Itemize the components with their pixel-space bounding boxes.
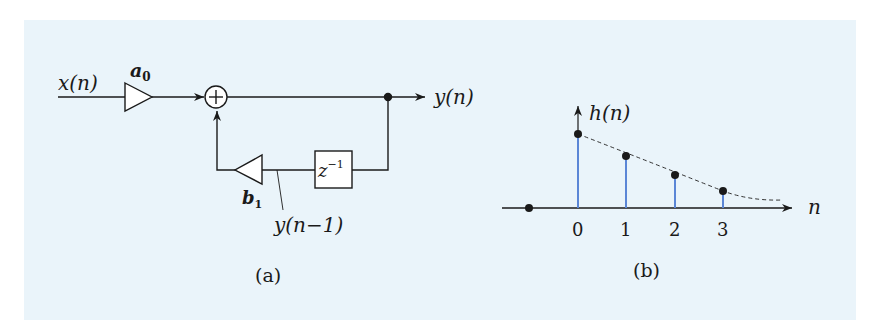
caption-b: (b) (633, 259, 660, 281)
gain-a0-triangle (125, 83, 152, 111)
feedback-return-line (217, 111, 235, 170)
tick-1: 1 (620, 219, 631, 240)
output-label: y(n) (433, 85, 474, 109)
x-axis-label: n (808, 195, 821, 219)
tick-2: 2 (669, 219, 680, 240)
decay-envelope (578, 134, 782, 200)
figure-canvas: x(n) a0 y(n) z−1 b1 y(n−1) (a) h(n) n 0 … (0, 0, 876, 336)
y-axis-label: h(n) (589, 101, 630, 125)
gain-b1-label: b1 (242, 187, 262, 211)
tick-0: 0 (572, 219, 583, 240)
tick-3: 3 (717, 219, 728, 240)
input-label: x(n) (58, 71, 98, 95)
leader-line (277, 170, 283, 210)
stems (578, 134, 723, 208)
caption-a: (a) (255, 264, 281, 286)
stem-plot: h(n) n 0 1 2 3 (b) (502, 101, 821, 281)
gain-a0-label: a0 (130, 59, 151, 84)
delayed-output-label: y(n−1) (273, 213, 343, 237)
block-diagram-labels: x(n) a0 y(n) z−1 b1 y(n−1) (a) (58, 59, 474, 286)
feedback-line (352, 97, 388, 170)
gain-b1-triangle (235, 155, 262, 184)
